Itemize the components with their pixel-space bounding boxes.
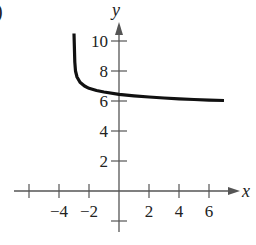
y-tick-label: 4	[100, 122, 109, 141]
x-tick-label: −2	[80, 202, 98, 221]
y-tick-label: 6	[100, 92, 109, 111]
axes	[14, 22, 240, 232]
y-tick-label: 8	[100, 62, 109, 81]
chart: −4−2246246810 x y	[0, 0, 256, 245]
x-axis-label: x	[241, 181, 250, 201]
x-tick-label: 6	[205, 202, 214, 221]
y-tick-label: 2	[100, 152, 109, 171]
x-axis-arrow-icon	[228, 187, 240, 195]
x-tick-label: −4	[50, 202, 69, 221]
y-axis-arrow-icon	[115, 22, 123, 35]
y-tick-label: 10	[91, 32, 108, 51]
y-axis-label: y	[110, 0, 120, 20]
x-tick-label: 4	[175, 202, 184, 221]
x-tick-label: 2	[145, 202, 154, 221]
